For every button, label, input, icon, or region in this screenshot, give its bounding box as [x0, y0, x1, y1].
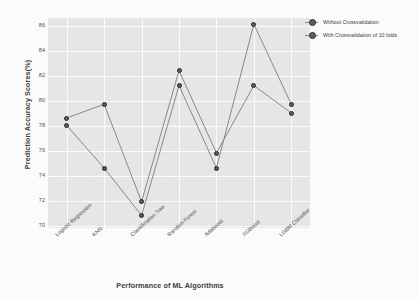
data-point [177, 83, 182, 88]
x-axis-title: Performance of ML Algorithms [0, 281, 340, 290]
data-point [214, 151, 219, 156]
series-line-with-crossvalidation [67, 24, 292, 215]
chart-legend: Without Crossvalidation With Crossvalida… [305, 19, 397, 45]
legend-item-without-crossvalidation[interactable]: Without Crossvalidation [305, 19, 397, 25]
data-point [177, 68, 182, 73]
data-point [214, 166, 219, 171]
line-chart-figure: 707274767880828486 Logistic RegressionKN… [0, 0, 418, 299]
y-axis-title: Prediction Accuracy Scores(%) [23, 35, 32, 195]
legend-label: Without Crossvalidation [323, 19, 379, 25]
legend-line-icon [305, 35, 318, 36]
data-point [289, 102, 294, 107]
data-point [289, 111, 294, 116]
data-point [102, 166, 107, 171]
data-point [64, 116, 69, 121]
legend-item-with-crossvalidation[interactable]: With Crossvalidation of 10 folds [305, 32, 397, 38]
series-line-without-crossvalidation [67, 71, 292, 202]
legend-line-icon [305, 22, 318, 23]
legend-label: With Crossvalidation of 10 folds [323, 32, 397, 38]
data-point [102, 102, 107, 107]
